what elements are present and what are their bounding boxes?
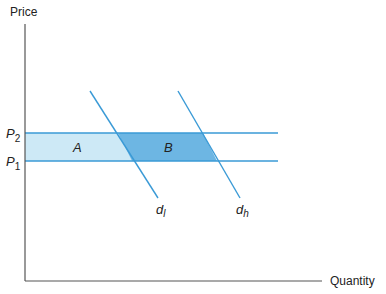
region-b-label: B [164, 140, 173, 155]
demand-high-label: dh [236, 202, 249, 219]
p1-label: P1 [6, 154, 21, 172]
region-a-label: A [72, 140, 82, 155]
p2-label: P2 [6, 126, 21, 144]
y-axis-label: Price [10, 5, 38, 19]
x-axis-label: Quantity [330, 274, 375, 288]
demand-low-label: dl [156, 202, 166, 219]
demand-diagram: Price Quantity P2 P1 A B dl dh [0, 0, 386, 294]
